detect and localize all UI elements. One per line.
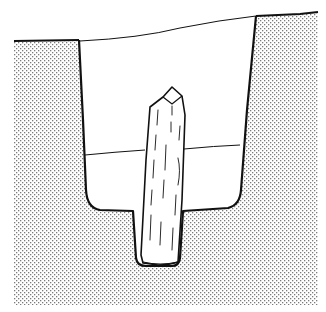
diagram-canvas (0, 0, 326, 312)
ground-surface-left (14, 40, 79, 41)
post-body (141, 87, 185, 265)
fill-layer-boundary-right (184, 145, 240, 149)
pit-top-surface-line (80, 16, 256, 41)
fill-layer-boundary-left (85, 150, 145, 155)
posthole-section-drawing (0, 0, 326, 312)
post (141, 87, 185, 265)
